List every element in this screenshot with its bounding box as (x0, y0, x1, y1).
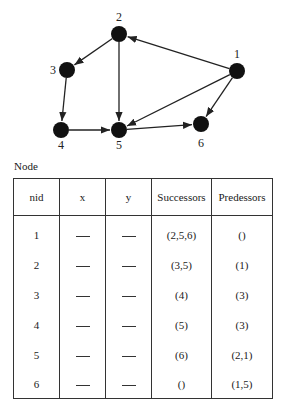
dash-placeholder (76, 385, 90, 386)
edge-1-to-5 (127, 75, 230, 126)
header-y: y (106, 179, 152, 216)
table-row: 4(5)(3) (14, 310, 273, 340)
dash-placeholder (76, 236, 90, 237)
cell-nid: 3 (14, 280, 60, 310)
node-label-4: 4 (58, 138, 64, 150)
dash-placeholder (122, 236, 136, 237)
edge-5-to-6 (127, 125, 192, 130)
cell-successors: (2,5,6) (152, 216, 212, 251)
dash-placeholder (76, 296, 90, 297)
node-table: nid x y Successors Predessors 1(2,5,6)()… (13, 178, 273, 399)
cell-successors: (6) (152, 340, 212, 370)
cell-nid: 6 (14, 370, 60, 399)
dash-placeholder (122, 356, 136, 357)
edge-2-to-3 (74, 39, 112, 65)
graph-node-4 (53, 122, 69, 138)
cell-x (60, 250, 106, 280)
cell-nid: 2 (14, 250, 60, 280)
node-label-2: 2 (116, 10, 122, 24)
header-nid: nid (14, 179, 60, 216)
cell-y (106, 310, 152, 340)
node-label-6: 6 (198, 136, 204, 150)
edge-3-to-4 (62, 78, 66, 121)
graph-nodes: 123456 (50, 10, 245, 150)
dash-placeholder (122, 296, 136, 297)
dash-placeholder (76, 266, 90, 267)
table-row: 1(2,5,6)() (14, 216, 273, 251)
table-caption: Node (14, 160, 38, 172)
cell-successors: (4) (152, 280, 212, 310)
cell-nid: 1 (14, 216, 60, 251)
cell-y (106, 370, 152, 399)
dash-placeholder (122, 385, 136, 386)
graph-node-1 (229, 63, 245, 79)
cell-x (60, 370, 106, 399)
graph-node-2 (111, 26, 127, 42)
edge-1-to-2 (128, 37, 230, 69)
cell-predecessors: (3) (212, 280, 273, 310)
header-successors: Successors (152, 179, 212, 216)
graph-node-5 (111, 122, 127, 138)
table-row: 6()(1,5) (14, 370, 273, 399)
cell-predecessors: () (212, 216, 273, 251)
node-label-1: 1 (234, 47, 240, 61)
dash-placeholder (122, 266, 136, 267)
table-row: 5(6)(2,1) (14, 340, 273, 370)
table-row: 3(4)(3) (14, 280, 273, 310)
directed-graph: 123456 (0, 0, 287, 150)
cell-successors: () (152, 370, 212, 399)
graph-edges (62, 37, 233, 130)
cell-y (106, 250, 152, 280)
header-x: x (60, 179, 106, 216)
cell-predecessors: (3) (212, 310, 273, 340)
cell-x (60, 280, 106, 310)
graph-node-6 (193, 116, 209, 132)
cell-y (106, 340, 152, 370)
cell-predecessors: (1) (212, 250, 273, 280)
cell-nid: 4 (14, 310, 60, 340)
cell-x (60, 216, 106, 251)
cell-y (106, 216, 152, 251)
graph-node-3 (59, 62, 75, 78)
edge-1-to-6 (206, 78, 232, 117)
header-predecessors: Predessors (212, 179, 273, 216)
cell-predecessors: (1,5) (212, 370, 273, 399)
node-label-5: 5 (116, 138, 122, 150)
cell-y (106, 280, 152, 310)
table-row: 2(3,5)(1) (14, 250, 273, 280)
dash-placeholder (76, 326, 90, 327)
cell-successors: (5) (152, 310, 212, 340)
cell-nid: 5 (14, 340, 60, 370)
node-label-3: 3 (50, 63, 56, 77)
cell-x (60, 310, 106, 340)
table-body: 1(2,5,6)()2(3,5)(1)3(4)(3)4(5)(3)5(6)(2,… (14, 216, 273, 399)
cell-predecessors: (2,1) (212, 340, 273, 370)
table-header-row: nid x y Successors Predessors (14, 179, 273, 216)
dash-placeholder (76, 356, 90, 357)
cell-x (60, 340, 106, 370)
dash-placeholder (122, 326, 136, 327)
cell-successors: (3,5) (152, 250, 212, 280)
